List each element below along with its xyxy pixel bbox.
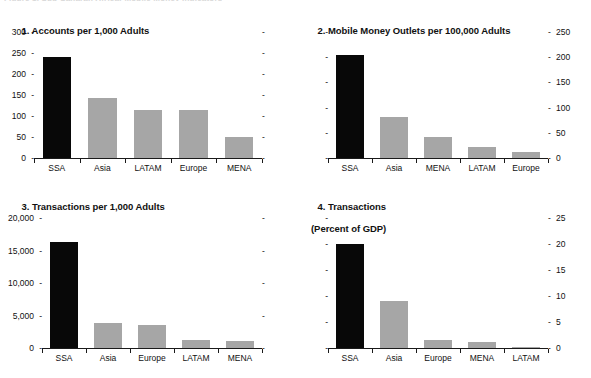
bar-cell — [416, 32, 460, 158]
bar-cell — [42, 218, 86, 348]
panel-1-ytick-left-1: 50- — [17, 132, 34, 142]
panel-1-ytick-right-6: -300 — [262, 27, 284, 37]
x-label-europe: Europe — [171, 163, 217, 173]
bar-cell — [80, 32, 126, 158]
bar-cell — [460, 32, 504, 158]
panel-3-ytick-left-3: 15,000- — [8, 246, 42, 256]
panel-3-ytick-left-4: 20,000- — [8, 213, 42, 223]
bar-mena — [226, 341, 253, 348]
panel-1-ytick-right-5: -250 — [262, 48, 284, 58]
chart-panel-1: 1. Accounts per 1,000 Adults 0-50-100-15… — [0, 14, 295, 189]
panel-3-ytick-right-0: -0 — [262, 343, 275, 353]
panel-2-ytick-left-5: 250- — [306, 27, 328, 37]
bar-latam — [134, 110, 162, 158]
panel-1-ytick-right-2: -100 — [262, 111, 284, 121]
panel-2-ytick-left-4: 200- — [306, 52, 328, 62]
panel-1-ytick-right-3: -150 — [262, 90, 284, 100]
panel-4-ytick-right-1: -5 — [548, 317, 561, 327]
panel-4-ytick-left-4: 20- — [311, 239, 328, 249]
panel-4-ytick-right-0: -0 — [548, 343, 561, 353]
panel-2-y-axis-left: 0-50-100-150-200-250- — [296, 14, 328, 189]
bar-cell — [504, 218, 548, 348]
panel-4-ytick-right-2: -10 — [548, 291, 565, 301]
panel-3-bars — [42, 218, 262, 348]
bar-latam — [468, 147, 495, 158]
x-label-europe: Europe — [416, 353, 460, 363]
panel-3-ytick-right-2: -10,000 — [262, 278, 296, 288]
panel-1-ytick-right-0: -0 — [262, 153, 275, 163]
x-tick — [548, 159, 549, 163]
bar-europe — [179, 110, 207, 158]
panel-2-ytick-right-0: -0 — [548, 153, 561, 163]
bar-cell — [372, 32, 416, 158]
panel-2-ytick-left-2: 100- — [306, 103, 328, 113]
panel-2-y-axis-right: -0-50-100-150-200-250 — [548, 14, 591, 189]
panel-3-ytick-left-2: 10,000- — [8, 278, 42, 288]
bar-cell — [328, 32, 372, 158]
bar-latam — [182, 340, 209, 348]
panel-3-x-labels: SSAAsiaEuropeLATAMMENA — [42, 353, 262, 363]
panel-2-x-labels: SSAAsiaMENALATAMEurope — [328, 163, 548, 173]
x-label-latam: LATAM — [504, 353, 548, 363]
panel-4-ytick-left-0: 0- — [315, 343, 328, 353]
panel-3-ytick-left-1: 5,000- — [13, 311, 42, 321]
panel-2-ytick-right-3: -150 — [548, 77, 570, 87]
x-label-ssa: SSA — [42, 353, 86, 363]
panel-3-ytick-right-1: -5,000 — [262, 311, 291, 321]
panel-4-ytick-right-5: -25 — [548, 213, 565, 223]
panel-1-y-axis-right: -0-50-100-150-200-250-300 — [262, 14, 295, 189]
bar-cell — [86, 218, 130, 348]
panel-3-ytick-right-4: -20,000 — [262, 213, 296, 223]
bar-ssa — [336, 244, 363, 348]
chart-panel-2: 2. Mobile Money Outlets per 100,000 Adul… — [296, 14, 591, 189]
x-label-mena: MENA — [218, 353, 262, 363]
x-label-ssa: SSA — [328, 353, 372, 363]
panel-2-ytick-left-1: 50- — [311, 128, 328, 138]
bar-europe — [424, 340, 451, 348]
x-tick — [548, 349, 549, 353]
bar-ssa — [336, 55, 363, 158]
panel-4-ytick-left-3: 15- — [311, 265, 328, 275]
x-label-asia: Asia — [372, 353, 416, 363]
bar-cell — [460, 218, 504, 348]
x-label-latam: LATAM — [125, 163, 171, 173]
bar-europe — [138, 325, 165, 348]
panel-4-ytick-left-5: 25- — [311, 213, 328, 223]
panel-4-bars — [328, 218, 548, 348]
x-label-mena: MENA — [416, 163, 460, 173]
panel-3-ytick-left-0: 0- — [29, 343, 42, 353]
clipped-figure-header: Figure 1. Sub-Saharan Africa: Mobile Mon… — [4, 0, 222, 1]
panel-1-y-axis-left: 0-50-100-150-200-250-300- — [0, 14, 34, 189]
panel-2-ytick-right-1: -50 — [548, 128, 565, 138]
x-label-latam: LATAM — [460, 163, 504, 173]
x-label-europe: Europe — [130, 353, 174, 363]
chart-panel-4: 4. Transactions (Percent of GDP) 0-5-10-… — [296, 190, 591, 378]
bar-cell — [216, 32, 262, 158]
panel-1-ytick-left-5: 250- — [12, 48, 34, 58]
x-label-ssa: SSA — [328, 163, 372, 173]
x-label-latam: LATAM — [174, 353, 218, 363]
bar-cell — [504, 32, 548, 158]
bar-asia — [380, 301, 407, 348]
x-label-ssa: SSA — [34, 163, 80, 173]
panel-3-y-axis-left: 0-5,000-10,000-15,000-20,000- — [0, 190, 42, 378]
panel-1-ytick-left-2: 100- — [12, 111, 34, 121]
x-label-europe: Europe — [504, 163, 548, 173]
bar-cell — [125, 32, 171, 158]
panel-1-bars — [34, 32, 262, 158]
panel-2-ytick-left-3: 150- — [306, 77, 328, 87]
bar-cell — [130, 218, 174, 348]
x-label-asia: Asia — [372, 163, 416, 173]
panel-1-x-labels: SSAAsiaLATAMEuropeMENA — [34, 163, 262, 173]
x-tick — [262, 159, 263, 163]
panel-4-y-axis-right: -0-5-10-15-20-25 — [548, 190, 591, 378]
panel-4-y-axis-left: 0-5-10-15-20-25- — [296, 190, 328, 378]
bar-mena — [225, 137, 253, 158]
panel-3-ytick-right-3: -15,000 — [262, 246, 296, 256]
bar-asia — [94, 323, 121, 348]
x-label-mena: MENA — [460, 353, 504, 363]
x-label-asia: Asia — [86, 353, 130, 363]
panel-2-ytick-left-0: 0- — [315, 153, 328, 163]
bar-asia — [88, 98, 116, 158]
panel-2-ytick-right-5: -250 — [548, 27, 570, 37]
